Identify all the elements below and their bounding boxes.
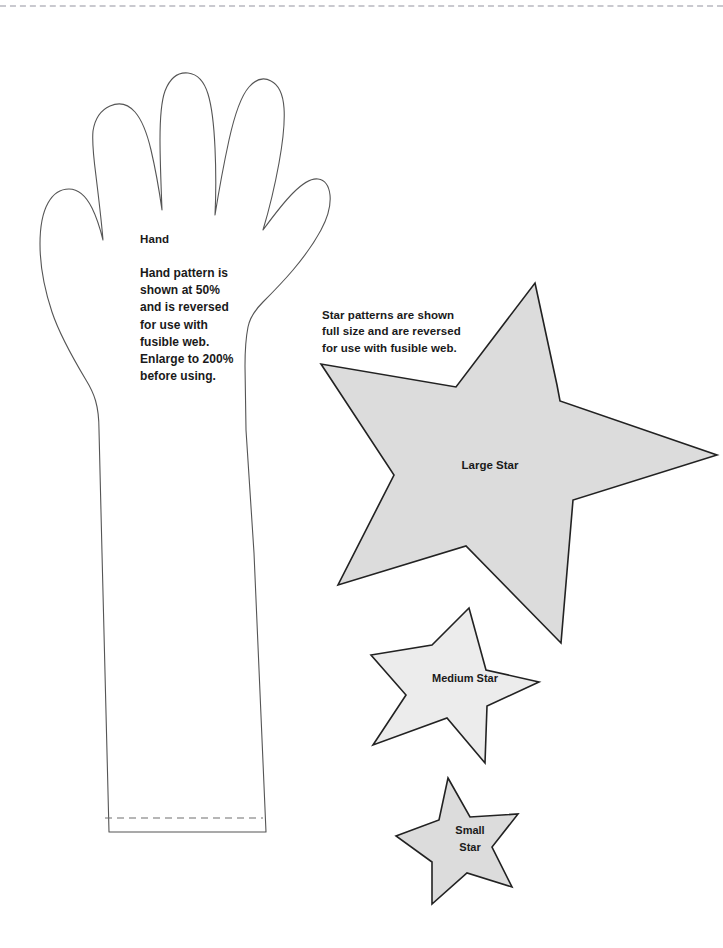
small-star-label: Small Star xyxy=(425,822,515,856)
pattern-sheet-page: Hand Hand pattern is shown at 50% and is… xyxy=(0,0,723,948)
pattern-artwork xyxy=(0,0,723,948)
medium-star-shape xyxy=(371,608,539,763)
medium-star-path xyxy=(371,608,539,763)
medium-star-label: Medium Star xyxy=(395,672,535,684)
hand-outline-path xyxy=(40,73,330,832)
star-instruction-note: Star patterns are shown full size and ar… xyxy=(322,307,461,356)
large-star-label: Large Star xyxy=(420,459,560,471)
hand-instruction-note: Hand pattern is shown at 50% and is reve… xyxy=(140,265,233,385)
hand-title: Hand xyxy=(140,233,169,245)
hand-pattern-shape xyxy=(40,73,330,832)
